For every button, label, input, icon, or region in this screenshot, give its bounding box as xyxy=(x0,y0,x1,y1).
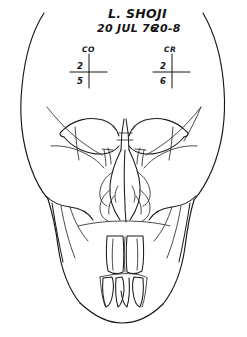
measurement-cross-left: CO 2 5 xyxy=(70,45,107,88)
measurement-right-denominator: 6 xyxy=(160,76,166,86)
measurement-right-code: CR xyxy=(164,45,176,54)
patient-name-label: L. SHOJI xyxy=(108,6,167,21)
record-number-label: 20-8 xyxy=(152,22,181,35)
date-label: 20 JUL 76 xyxy=(97,22,158,35)
measurement-left-code: CO xyxy=(82,45,95,54)
measurement-cross-right: CR 2 6 xyxy=(153,45,190,88)
handwritten-annotations: L. SHOJI 20 JUL 76 20-8 CO 2 5 CR 2 6 xyxy=(0,0,247,337)
measurement-right-numerator: 2 xyxy=(160,61,166,71)
measurement-left-denominator: 5 xyxy=(77,76,83,86)
measurement-left-numerator: 2 xyxy=(77,61,83,71)
tracing-sheet: L. SHOJI 20 JUL 76 20-8 CO 2 5 CR 2 6 xyxy=(0,0,247,337)
